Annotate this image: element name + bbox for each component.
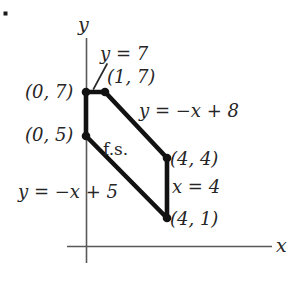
constraint-label-y-equals-neg-x-plus-5: y = −x + 5 — [18, 183, 118, 201]
feasible-set-annotation: f.s. — [103, 141, 128, 158]
vertex-label-1-7: (1, 7) — [107, 68, 155, 86]
feasible-set-figure: y x y = 7 y = −x + 8 y = −x + 5 x = 4 f.… — [0, 0, 297, 290]
vertex-label-0-7: (0, 7) — [25, 83, 73, 101]
constraint-label-y-equals-neg-x-plus-8: y = −x + 8 — [139, 102, 239, 120]
y-eq-7-leader-line — [94, 64, 108, 89]
x-axis-label: x — [276, 236, 287, 255]
y-axis-label: y — [78, 15, 89, 34]
vertex-dot-0-5 — [82, 132, 91, 141]
constraint-label-x-equals-4: x = 4 — [172, 178, 220, 196]
figure-canvas — [0, 0, 297, 290]
vertex-dot-1-7 — [101, 88, 110, 97]
vertex-label-0-5: (0, 5) — [25, 126, 73, 144]
vertex-dot-0-7 — [82, 88, 91, 97]
bullet-marker-icon — [4, 12, 8, 16]
vertex-label-4-4: (4, 4) — [170, 150, 218, 168]
vertex-label-4-1: (4, 1) — [170, 210, 218, 228]
constraint-label-y-equals-7: y = 7 — [100, 45, 148, 63]
